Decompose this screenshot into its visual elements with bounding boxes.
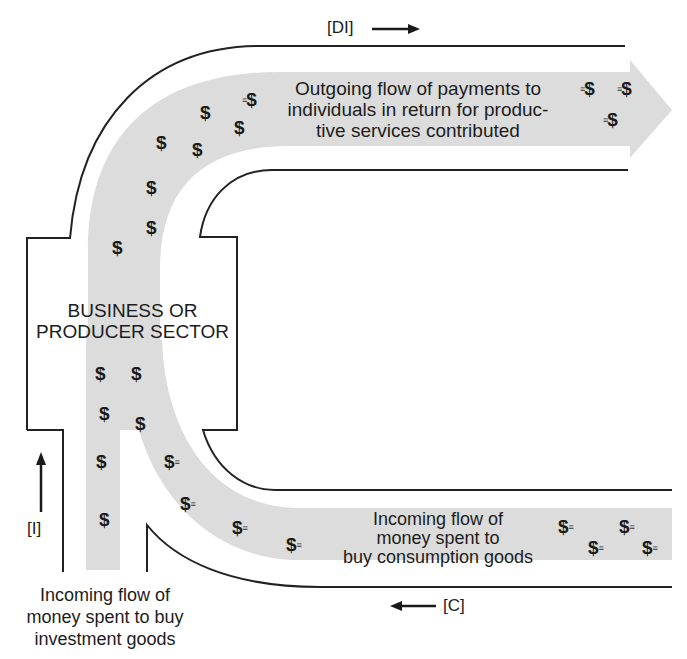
dollar-icon: $ (99, 510, 110, 529)
sector-label: BUSINESS OR PRODUCER SECTOR (30, 300, 235, 342)
dollar-icon: ≡$ (580, 79, 595, 98)
dollar-icon: $ (156, 133, 167, 152)
dollar-icon: $ (99, 404, 110, 423)
dollar-icon: ≡$ (603, 110, 618, 129)
dollar-icon: $ (146, 218, 157, 237)
consumption-flow-line2: money spent to (318, 529, 558, 548)
c-arrowhead-icon (390, 601, 402, 611)
left-box-wall (27, 430, 63, 572)
investment-flow-label: Incoming flow of money spent to buy inve… (10, 584, 200, 650)
dollar-icon: $ (95, 364, 106, 383)
dollar-icon: $≡ (588, 538, 603, 557)
dollar-icon: $ (234, 118, 245, 137)
dollar-icon: $≡ (558, 517, 573, 536)
dollar-icon: $≡ (619, 517, 634, 536)
sector-label-line1: BUSINESS OR (30, 300, 235, 321)
dollar-icon: $≡ (286, 535, 301, 554)
investment-flow-line1: Incoming flow of (10, 584, 200, 606)
dollar-icon: ≡$ (242, 90, 257, 109)
consumption-flow-line1: Incoming flow of (318, 510, 558, 529)
consumption-flow-line3: buy consumption goods (318, 548, 558, 567)
dollar-icon: $ (96, 452, 107, 471)
dollar-icon: $ (192, 140, 203, 159)
outgoing-flow-line1: Outgoing flow of payments to (268, 78, 568, 99)
consumption-flow-label: Incoming flow of money spent to buy cons… (318, 510, 558, 567)
di-tag: [DI] (327, 18, 353, 38)
investment-flow-line2: money spent to buy (10, 606, 200, 628)
investment-flow-line3: investment goods (10, 628, 200, 650)
inner-top-pipe-wall (200, 170, 672, 490)
sector-label-line2: PRODUCER SECTOR (30, 321, 235, 342)
dollar-icon: $≡ (164, 452, 179, 471)
c-tag: [C] (443, 596, 465, 616)
dollar-icon: $≡ (180, 494, 195, 513)
dollar-icon: $≡ (642, 538, 657, 557)
outgoing-flow-line3: tive services contributed (268, 120, 568, 141)
dollar-icon: $ (135, 414, 146, 433)
dollar-icon: $ (131, 364, 142, 383)
di-arrowhead-icon (408, 24, 420, 34)
dollar-icon: $ (112, 238, 123, 257)
dollar-icon: $ (200, 103, 211, 122)
dollar-icon: ≡$ (617, 79, 632, 98)
dollar-icon: $ (146, 178, 157, 197)
outgoing-flow-label: Outgoing flow of payments to individuals… (268, 78, 568, 141)
i-arrowhead-icon (36, 452, 46, 465)
outgoing-flow-line2: individuals in return for produc- (268, 99, 568, 120)
i-tag: [I] (27, 519, 41, 539)
dollar-icon: $≡ (232, 518, 247, 537)
